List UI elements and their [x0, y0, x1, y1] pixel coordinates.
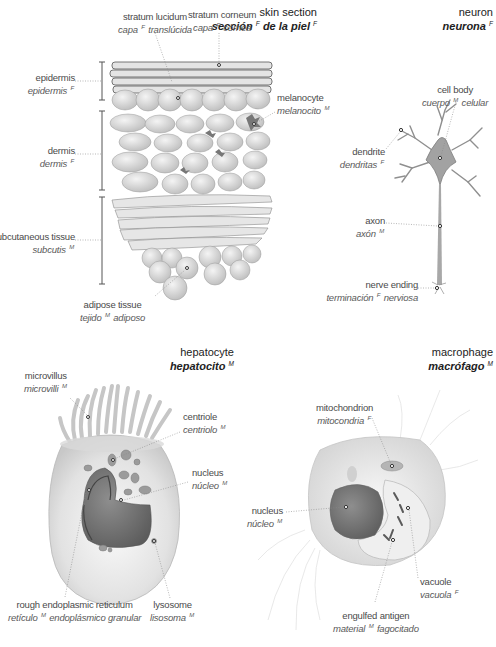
- label-macrophage-nucleus: nucleus núcleo M: [247, 505, 283, 529]
- hepatocyte-title: hepatocyte hepatocito M: [170, 346, 234, 372]
- label-dendrite: dendrite dendritas F: [340, 146, 385, 170]
- label-axon: axon axón M: [356, 215, 385, 239]
- label-melanocyte: melanocyte melanocito M: [277, 92, 330, 116]
- neuron-title: neuron neurona F: [443, 6, 493, 32]
- label-lysosome: lysosome lisosoma M: [150, 599, 195, 623]
- label-stratum-corneum: stratum corneum capa F córnea: [188, 9, 256, 33]
- label-hepatocyte-nucleus: nucleus núcleo M: [192, 467, 228, 491]
- label-rough-endoplasmic-reticulum: rough endoplasmic reticulum retículo M e…: [8, 599, 141, 623]
- label-nerve-ending: nerve ending terminación F nerviosa: [326, 279, 418, 303]
- label-mitochondrion: mitochondrion mitocondria F: [316, 402, 373, 426]
- neuron-illustration: [386, 100, 482, 294]
- label-stratum-lucidum: stratum lucidum capa F translúcida: [118, 11, 192, 35]
- label-vacuole: vacuole vacuola F: [420, 576, 459, 600]
- label-adipose-tissue: adipose tissue tejido M adiposo: [80, 299, 145, 323]
- macrophage-title: macrophage macrófago M: [428, 346, 493, 372]
- label-cell-body: cell body cuerpo M celular: [422, 84, 488, 108]
- skin-section-illustration: [75, 33, 275, 300]
- label-microvillus: microvillus microvilli M: [24, 370, 68, 394]
- label-epidermis: epidermis epidermis F: [28, 72, 75, 96]
- label-centriole: centriole centriolo M: [183, 411, 226, 435]
- layer-brackets: [99, 62, 105, 284]
- label-engulfed-antigen: engulfed antigen material M fagocitado: [333, 610, 419, 634]
- label-dermis: dermis dermis F: [40, 145, 75, 169]
- label-subcutaneous-tissue: subcutaneous tissue subcutis M: [0, 231, 75, 255]
- hepatocyte-illustration: [49, 386, 188, 605]
